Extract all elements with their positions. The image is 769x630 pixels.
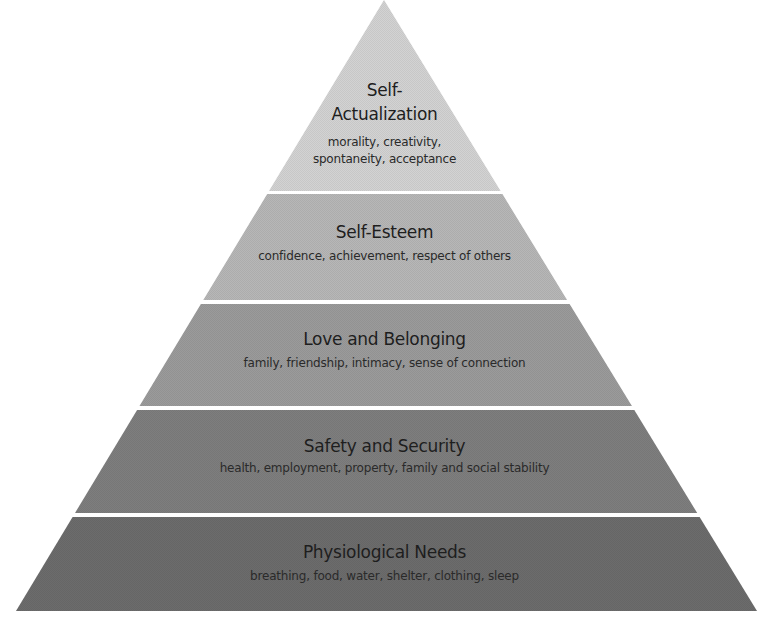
tier-self-esteem: Self-Esteem confidence, achievement, res… (0, 220, 769, 265)
tier-description: confidence, achievement, respect of othe… (0, 248, 769, 265)
tier-description: health, employment, property, family and… (0, 460, 769, 477)
tier-safety-and-security: Safety and Security health, employment, … (0, 434, 769, 477)
tier-description: morality, creativity, (0, 134, 769, 151)
tier-description: spontaneity, acceptance (0, 151, 769, 168)
tier-title: Safety and Security (0, 434, 769, 458)
tier-title: Physiological Needs (0, 540, 769, 564)
tier-description: breathing, food, water, shelter, clothin… (0, 568, 769, 585)
tier-title: Self- (0, 78, 769, 102)
tier-title: Actualization (0, 102, 769, 126)
tier-description: family, friendship, intimacy, sense of c… (0, 355, 769, 372)
tier-title: Love and Belonging (0, 327, 769, 351)
tier-love-and-belonging: Love and Belonging family, friendship, i… (0, 327, 769, 372)
tier-self-actualization: Self- Actualization morality, creativity… (0, 78, 769, 168)
tier-title: Self-Esteem (0, 220, 769, 244)
tier-physiological-needs: Physiological Needs breathing, food, wat… (0, 540, 769, 585)
